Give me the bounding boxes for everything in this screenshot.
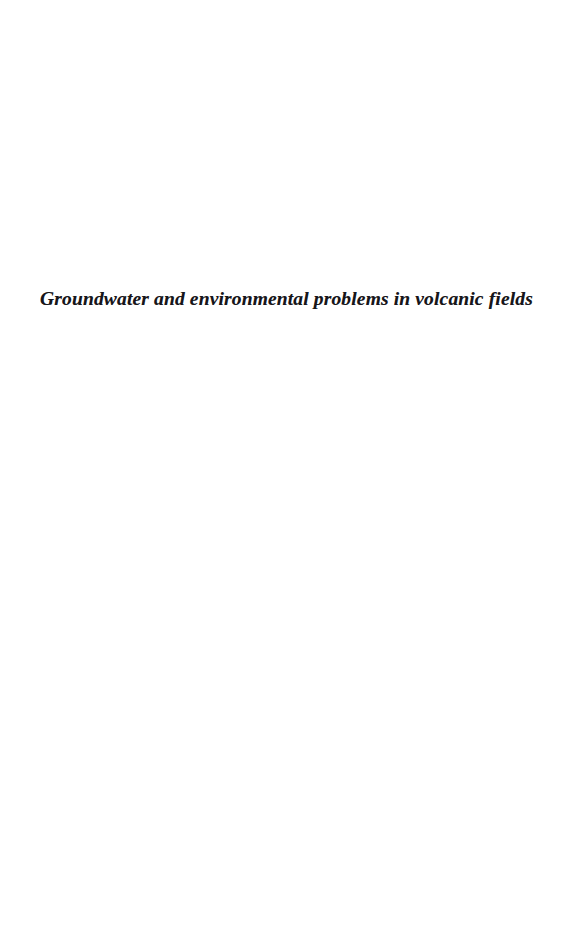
- scanned-page: Groundwater and environmental problems i…: [0, 0, 573, 926]
- part-title-heading: Groundwater and environmental problems i…: [0, 287, 573, 311]
